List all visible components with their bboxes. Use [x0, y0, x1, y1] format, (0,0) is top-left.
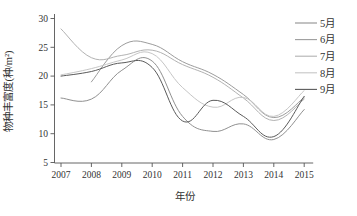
y-tick-label: 5 — [43, 158, 48, 168]
y-tick-label: 20 — [39, 71, 49, 81]
y-axis-title: 物种丰富度(种/m²) — [2, 50, 15, 132]
y-tick-label: 25 — [39, 43, 49, 53]
legend-label-9月: 9月 — [320, 84, 335, 95]
series-line-9月 — [61, 60, 304, 137]
y-tick-label: 30 — [39, 14, 49, 24]
legend-item: 6月 — [295, 34, 335, 45]
x-tick-label: 2012 — [204, 170, 223, 180]
species-richness-figure: 5101520253020072008200920102011201220132… — [0, 0, 357, 216]
legend-label-5月: 5月 — [320, 18, 335, 29]
x-tick-label: 2013 — [234, 170, 253, 180]
richness-line-chart: 5101520253020072008200920102011201220132… — [0, 0, 357, 216]
y-tick-label: 15 — [39, 100, 49, 110]
legend-item: 7月 — [295, 51, 335, 62]
legend-item: 8月 — [295, 68, 335, 79]
legend-label-6月: 6月 — [320, 34, 335, 45]
x-tick-label: 2009 — [112, 170, 131, 180]
x-tick-label: 2007 — [52, 170, 71, 180]
x-tick-label: 2008 — [82, 170, 101, 180]
x-tick-label: 2010 — [143, 170, 162, 180]
x-tick-label: 2011 — [173, 170, 192, 180]
y-tick-label: 10 — [39, 129, 49, 139]
legend: 5月6月7月8月9月 — [295, 18, 335, 95]
legend-item: 5月 — [295, 18, 335, 29]
series-line-7月 — [61, 29, 304, 121]
x-axis-title: 年份 — [175, 190, 196, 202]
x-tick-label: 2015 — [295, 170, 314, 180]
legend-label-8月: 8月 — [320, 68, 335, 79]
axes: 5101520253020072008200920102011201220132… — [39, 14, 314, 180]
data-series — [61, 29, 304, 140]
x-tick-label: 2014 — [264, 170, 283, 180]
series-line-6月 — [91, 41, 304, 118]
legend-label-7月: 7月 — [320, 51, 335, 62]
